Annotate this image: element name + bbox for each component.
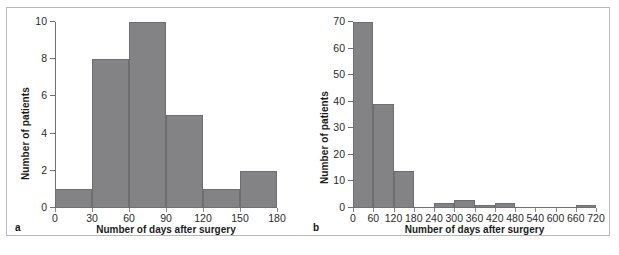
- histogram-bar: [373, 104, 393, 208]
- histogram-bar: [203, 189, 240, 208]
- panel-a-x-tick-label: 60: [123, 212, 135, 224]
- panel-b-x-tick-label: 300: [445, 212, 463, 224]
- panel-b-x-tick: 60: [373, 208, 374, 212]
- panel-a-x-tick-label: 90: [160, 212, 172, 224]
- panel-a-x-tick-label: 180: [268, 212, 286, 224]
- panel-b-x-tick: 0: [353, 208, 354, 212]
- panel-b-y-tick-label: 50: [333, 68, 345, 80]
- panel-b-x-tick: 720: [596, 208, 597, 212]
- panel-b-x-tick: 540: [535, 208, 536, 212]
- panel-a-y-tick: 4: [50, 133, 55, 134]
- panel-a-x-tick: 90: [166, 208, 167, 212]
- panel-a-x-tick-label: 150: [231, 212, 249, 224]
- panel-b-x-tick-label: 360: [466, 212, 484, 224]
- panel-a-y-tick: 8: [50, 58, 55, 59]
- panel-b-x-tick-label: 540: [526, 212, 544, 224]
- panel-b-x-tick-label: 720: [587, 212, 605, 224]
- panel-b-x-tick: 600: [556, 208, 557, 212]
- panel-b-y-axis-title: Number of patients: [319, 91, 330, 184]
- panel-a-x-tick: 60: [129, 208, 130, 212]
- panel-b-plot-area: 0102030405060700601201802403003604204805…: [353, 22, 596, 208]
- panel-a-y-tick: 10: [50, 21, 55, 22]
- panel-b-y-tick-label: 30: [333, 121, 345, 133]
- panel-a-y-tick-label: 10: [35, 15, 47, 27]
- panel-a-x-tick: 180: [277, 208, 278, 212]
- panel-a-y-tick-label: 8: [41, 52, 47, 64]
- panel-a-y-tick-label: 2: [41, 164, 47, 176]
- panel-a-y-tick: 6: [50, 95, 55, 96]
- panel-b-x-tick: 480: [515, 208, 516, 212]
- panel-a-x-tick: 120: [203, 208, 204, 212]
- panel-b-letter: b: [313, 222, 319, 233]
- figure-frame: Number of patients 024681003060901201501…: [6, 7, 610, 236]
- panel-a-y-tick-label: 4: [41, 127, 47, 139]
- histogram-bar: [166, 115, 203, 208]
- histogram-bar: [475, 205, 495, 208]
- histogram-bar: [576, 205, 596, 208]
- panel-b-x-tick-label: 420: [486, 212, 504, 224]
- panel-b-y-tick-label: 60: [333, 42, 345, 54]
- panel-a-x-axis-title: Number of days after surgery: [55, 224, 277, 235]
- histogram-bar: [240, 171, 277, 208]
- histogram-bar: [92, 59, 129, 208]
- panel-a: Number of patients 024681003060901201501…: [7, 8, 307, 237]
- panel-a-x-tick-label: 120: [194, 212, 212, 224]
- panel-b-y-tick-label: 0: [339, 201, 345, 213]
- panel-b-x-tick-label: 180: [405, 212, 423, 224]
- panel-a-letter: a: [15, 222, 21, 233]
- figure-container: Number of patients 024681003060901201501…: [0, 0, 619, 255]
- panel-a-plot-area: 02468100306090120150180: [55, 22, 277, 208]
- histogram-bar: [454, 200, 474, 208]
- histogram-bar: [353, 22, 373, 208]
- panel-a-y-axis-line: [55, 22, 56, 208]
- histogram-bar: [129, 22, 166, 208]
- panel-b-x-tick: 360: [475, 208, 476, 212]
- panel-b-x-tick: 420: [495, 208, 496, 212]
- panel-b-y-tick-label: 40: [333, 95, 345, 107]
- panel-a-y-axis-title: Number of patients: [20, 87, 31, 180]
- panel-b: Number of patients 010203040506070060120…: [307, 8, 611, 237]
- panel-a-x-tick: 0: [55, 208, 56, 212]
- histogram-bar: [394, 171, 414, 208]
- histogram-bar: [495, 203, 515, 208]
- panel-a-y-tick-label: 0: [41, 201, 47, 213]
- panel-b-x-tick: 300: [454, 208, 455, 212]
- panel-a-x-tick-label: 30: [86, 212, 98, 224]
- panel-a-y-tick-label: 6: [41, 89, 47, 101]
- panel-b-x-tick-label: 60: [367, 212, 379, 224]
- panel-a-x-tick-label: 0: [52, 212, 58, 224]
- panel-b-x-tick-label: 120: [385, 212, 403, 224]
- panel-b-x-tick: 180: [414, 208, 415, 212]
- panel-b-y-tick-label: 20: [333, 148, 345, 160]
- panel-b-x-tick: 660: [576, 208, 577, 212]
- panel-a-y-tick: 2: [50, 170, 55, 171]
- panel-a-x-tick: 150: [240, 208, 241, 212]
- panel-b-x-tick: 120: [394, 208, 395, 212]
- panel-b-y-tick-label: 10: [333, 174, 345, 186]
- panel-b-x-tick-label: 480: [506, 212, 524, 224]
- panel-b-x-tick-label: 600: [547, 212, 565, 224]
- panel-b-y-tick-label: 70: [333, 15, 345, 27]
- panel-a-x-tick: 30: [92, 208, 93, 212]
- histogram-bar: [434, 203, 454, 208]
- panel-b-x-tick-label: 660: [567, 212, 585, 224]
- panel-b-x-tick: 240: [434, 208, 435, 212]
- panel-b-x-tick-label: 240: [425, 212, 443, 224]
- panel-b-x-tick-label: 0: [350, 212, 356, 224]
- panel-b-x-axis-title: Number of days after surgery: [353, 224, 596, 235]
- histogram-bar: [55, 189, 92, 208]
